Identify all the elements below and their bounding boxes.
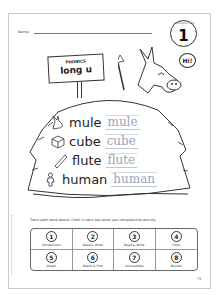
human-icon <box>43 172 58 187</box>
lesson-badge-arc-text: INTRODUCTION <box>173 22 195 25</box>
activity-number: 8 <box>171 252 182 263</box>
activity-label: Read & Write <box>124 243 144 247</box>
word-row-human: human human <box>43 169 157 189</box>
activity-number: 7 <box>129 252 140 263</box>
phonics-sign: PHONICS long u <box>47 54 104 84</box>
activity-label: Match & Find <box>83 264 103 268</box>
speech-bubble: Hi! <box>179 53 196 68</box>
activity-box[interactable]: 2Read & Write <box>73 229 115 250</box>
word-text: flute <box>72 153 102 168</box>
page-number: 75 <box>197 277 201 281</box>
activity-number: 6 <box>87 252 98 263</box>
mule-icon <box>50 115 65 130</box>
word-text: mule <box>69 115 102 130</box>
word-row-mule: mule mule <box>50 112 140 132</box>
trace-word[interactable]: flute <box>106 153 138 168</box>
instructions-text: Trace each word above. Color in each box… <box>30 218 156 222</box>
name-label: Name: <box>18 30 30 34</box>
name-row: Name: <box>18 29 152 34</box>
activity-number: 1 <box>46 231 57 242</box>
activity-box[interactable]: 5Graph <box>31 250 73 271</box>
activity-progress-grid: 1Introduction 2Read & Write 3Read & Writ… <box>30 228 198 271</box>
activity-label: Color <box>172 243 180 247</box>
activity-number: 4 <box>171 231 182 242</box>
activity-box[interactable]: 6Match & Find <box>73 250 115 271</box>
activity-box[interactable]: 1Introduction <box>31 229 73 250</box>
activity-box[interactable]: 7Unscramble <box>114 250 156 271</box>
activity-label: Review <box>171 264 182 268</box>
trace-word[interactable]: mule <box>106 115 140 130</box>
page-edge-strip <box>11 215 14 275</box>
activity-number: 3 <box>129 231 140 242</box>
trace-word[interactable]: human <box>111 172 157 187</box>
activity-box[interactable]: 3Read & Write <box>114 229 156 250</box>
word-row-cube: cube cube <box>50 131 138 151</box>
word-text: human <box>62 172 107 187</box>
activity-number: 5 <box>46 252 57 263</box>
activity-box[interactable]: 4Color <box>156 229 198 250</box>
cube-icon <box>50 134 65 149</box>
activity-number: 2 <box>87 231 98 242</box>
word-text: cube <box>69 134 101 149</box>
activity-box[interactable]: 8Review <box>156 250 198 271</box>
flute-icon <box>53 153 68 168</box>
sign-topic: long u <box>49 64 103 77</box>
lesson-number: 1 <box>171 27 196 45</box>
trace-word[interactable]: cube <box>105 134 138 149</box>
lesson-badge: INTRODUCTION 1 <box>170 20 197 47</box>
activity-label: Introduction <box>42 243 61 247</box>
activity-label: Graph <box>47 264 57 268</box>
activity-label: Unscramble <box>125 264 143 268</box>
word-row-flute: flute flute <box>53 150 137 170</box>
activity-label: Read & Write <box>83 243 103 247</box>
name-field[interactable] <box>34 29 152 34</box>
